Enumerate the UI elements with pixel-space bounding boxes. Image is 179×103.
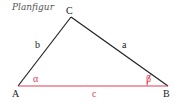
- side-b: [18, 17, 71, 86]
- angle-label-alpha: α: [33, 74, 38, 84]
- vertex-label-b: B: [163, 89, 170, 99]
- triangle-figure: [0, 0, 179, 103]
- side-label-a: a: [122, 40, 126, 50]
- side-label-b: b: [35, 40, 40, 50]
- side-a: [71, 17, 168, 86]
- vertex-label-a: A: [12, 89, 19, 99]
- figure-title: Planfigur: [12, 2, 54, 12]
- vertex-label-c: C: [66, 6, 73, 16]
- triangle-diagram: Planfigur C A B b a c α β: [0, 0, 179, 103]
- side-label-c: c: [92, 89, 96, 99]
- angle-label-beta: β: [146, 74, 151, 84]
